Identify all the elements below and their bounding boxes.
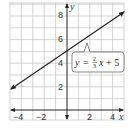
y-tick-label: 4	[58, 58, 63, 68]
equation-callout: y = 2 3 x + 5	[72, 43, 124, 72]
y-tick-label: 8	[58, 10, 63, 20]
equation-y: y	[74, 57, 80, 68]
x-tick-label: 4	[110, 112, 115, 122]
equation-equals: =	[83, 57, 89, 68]
line-chart: x y −4 −2 2 4 8 6 4 2 y = 2 3 x + 5	[0, 0, 128, 128]
equation-numerator: 2	[93, 56, 96, 62]
x-tick-label: 2	[87, 112, 92, 122]
equation-x: x	[98, 57, 104, 68]
y-tick-label: 2	[58, 82, 63, 92]
y-axis-label: y	[69, 1, 75, 12]
x-tick-label: −2	[36, 112, 46, 122]
x-tick-label: −4	[13, 112, 23, 122]
y-tick-label: 6	[58, 34, 63, 44]
x-axis-label: x	[118, 111, 124, 122]
equation-plus-constant: + 5	[106, 57, 119, 68]
equation-denominator: 3	[93, 63, 96, 69]
